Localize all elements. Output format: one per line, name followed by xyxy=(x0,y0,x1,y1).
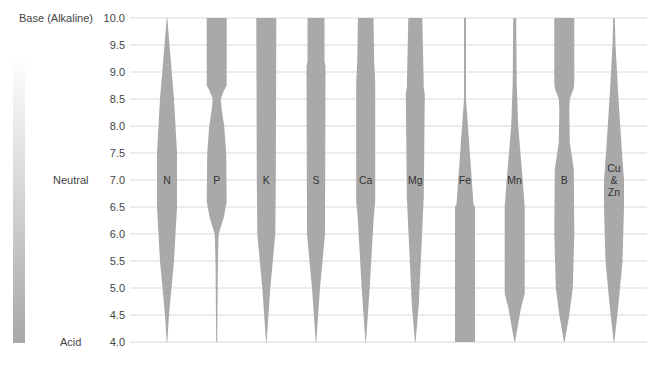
side-label-neutral: Neutral xyxy=(53,174,88,186)
y-tick-label: 9.0 xyxy=(110,66,125,78)
y-tick-label: 6.5 xyxy=(110,201,125,213)
side-label-base: Base (Alkaline) xyxy=(19,12,93,24)
y-tick-label: 10.0 xyxy=(104,12,125,24)
nutrient-label: Cu xyxy=(607,162,621,174)
nutrient-label: Zn xyxy=(608,186,620,198)
side-label-acid: Acid xyxy=(60,336,81,348)
y-tick-label: 7.5 xyxy=(110,147,125,159)
nutrient-label: Mn xyxy=(507,174,522,186)
y-tick-label: 4.0 xyxy=(110,336,125,348)
nutrient-label: Fe xyxy=(459,174,471,186)
y-tick-label: 5.0 xyxy=(110,282,125,294)
nutrient-label: K xyxy=(263,174,270,186)
y-tick-label: 9.5 xyxy=(110,39,125,51)
y-tick-label: 8.0 xyxy=(110,120,125,132)
y-tick-label: 6.0 xyxy=(110,228,125,240)
nutrient-label: N xyxy=(163,174,171,186)
nutrient-label: Mg xyxy=(408,174,423,186)
y-tick-label: 8.5 xyxy=(110,93,125,105)
ph-gradient-bar xyxy=(13,55,25,343)
nutrient-label: P xyxy=(213,174,220,186)
nutrient-ph-chart: Base (Alkaline) Neutral Acid 4.04.55.05.… xyxy=(0,0,665,367)
y-axis-ticks: 4.04.55.05.56.06.57.07.58.08.59.09.510.0 xyxy=(104,12,125,348)
y-tick-label: 4.5 xyxy=(110,309,125,321)
y-tick-label: 7.0 xyxy=(110,174,125,186)
y-tick-label: 5.5 xyxy=(110,255,125,267)
nutrient-label: Ca xyxy=(359,174,373,186)
nutrient-label: B xyxy=(561,174,568,186)
nutrient-label: S xyxy=(312,174,319,186)
nutrient-label: & xyxy=(610,174,617,186)
